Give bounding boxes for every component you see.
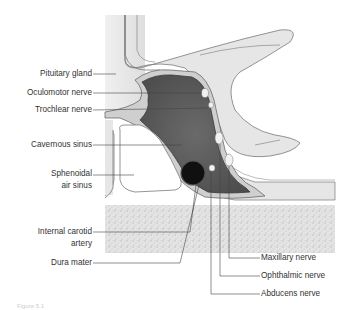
figure-caption: Figure 5.1 — [17, 303, 44, 309]
label-sphenoidal-air-sinus-line1: Sphenoidal — [51, 169, 92, 179]
maxillary-nerve — [225, 154, 233, 166]
label-internal-carotid-artery-line1: Internal carotid — [38, 227, 92, 237]
label-abducens-nerve: Abducens nerve — [261, 289, 320, 299]
trochlear-nerve — [209, 102, 214, 108]
label-pituitary-gland: Pituitary gland — [40, 69, 92, 79]
label-internal-carotid-artery-line2: artery — [71, 239, 92, 249]
oculomotor-nerve — [202, 89, 209, 98]
label-sphenoidal-air-sinus-line2: air sinus — [62, 181, 93, 191]
ophthalmic-nerve — [215, 132, 223, 144]
label-maxillary-nerve: Maxillary nerve — [261, 253, 316, 263]
abducens-nerve — [209, 165, 215, 171]
label-ophthalmic-nerve: Ophthalmic nerve — [261, 271, 325, 281]
label-cavernous-sinus: Cavernous sinus — [31, 140, 92, 150]
internal-carotid-artery — [181, 161, 205, 185]
label-oculomotor-nerve: Oculomotor nerve — [27, 88, 92, 98]
label-trochlear-nerve: Trochlear nerve — [35, 105, 92, 115]
label-dura-mater: Dura mater — [51, 258, 92, 268]
